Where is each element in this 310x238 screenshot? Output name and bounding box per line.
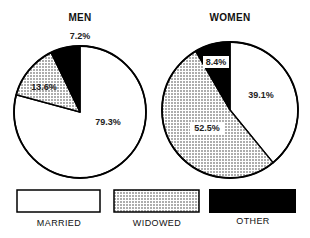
chart-canvas: MEN 7.2% 13.6% 79.3% WOMEN 8.4% 39.1% 52…: [0, 0, 310, 238]
slice-label-men-married: 79.3%: [95, 117, 121, 127]
legend-label-married: MARRIED: [37, 218, 81, 228]
pie-title-men: MEN: [68, 12, 91, 23]
legend-swatch-widowed: [114, 190, 199, 212]
slice-label-men-other: 7.2%: [70, 31, 91, 41]
slice-label-women-widowed: 52.5%: [194, 123, 220, 133]
legend-label-widowed: WIDOWED: [133, 218, 181, 228]
pie-chart-women: WOMEN 8.4% 39.1% 52.5%: [162, 12, 298, 178]
legend-swatch-married: [17, 190, 100, 212]
slice-label-men-widowed: 13.6%: [31, 82, 57, 92]
pie-title-women: WOMEN: [210, 12, 251, 23]
legend: MARRIED WIDOWED OTHER: [17, 189, 296, 228]
slice-label-women-other: 8.4%: [206, 57, 227, 67]
legend-swatch-other: [209, 189, 296, 213]
slice-label-women-married: 39.1%: [248, 90, 274, 100]
legend-label-other: OTHER: [236, 216, 270, 226]
pie-chart-men: MEN 7.2% 13.6% 79.3%: [14, 12, 146, 178]
